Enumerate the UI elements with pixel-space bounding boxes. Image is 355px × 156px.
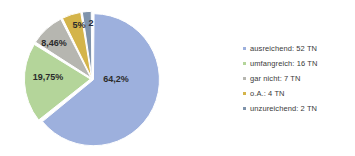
pie-slice-label-oa: 5% xyxy=(72,20,85,30)
pie-chart-svg: 64,2% 19,75% 8,46% 5% 2 xyxy=(0,0,200,156)
legend-color-swatch-icon xyxy=(243,107,246,110)
chart-legend: ausreichend: 52 TN umfangreich: 16 TN ga… xyxy=(243,41,355,116)
legend-item-label: umfangreich: 16 TN xyxy=(250,59,318,68)
pie-slice-label-umfangreich: 19,75% xyxy=(33,72,64,82)
legend-color-swatch-icon xyxy=(243,47,246,50)
pie-chart-figure: 64,2% 19,75% 8,46% 5% 2 ausreichend: 52 … xyxy=(0,0,355,156)
legend-item-oa[interactable]: o.A.: 4 TN xyxy=(243,86,355,100)
pie-chart-plot-area: 64,2% 19,75% 8,46% 5% 2 xyxy=(0,0,200,156)
legend-color-swatch-icon xyxy=(243,77,246,80)
legend-item-label: o.A.: 4 TN xyxy=(250,89,285,98)
pie-slice-label-gar-nicht: 8,46% xyxy=(41,38,67,48)
pie-slice-label-ausreichend: 64,2% xyxy=(103,74,129,84)
legend-item-gar-nicht[interactable]: gar nicht: 7 TN xyxy=(243,71,355,85)
legend-item-umfangreich[interactable]: umfangreich: 16 TN xyxy=(243,56,355,70)
legend-item-label: unzureichend: 2 TN xyxy=(250,104,317,113)
legend-item-ausreichend[interactable]: ausreichend: 52 TN xyxy=(243,41,355,55)
legend-color-swatch-icon xyxy=(243,62,246,65)
pie-slice-label-unzureichend: 2 xyxy=(88,18,93,28)
legend-item-unzureichend[interactable]: unzureichend: 2 TN xyxy=(243,101,355,115)
legend-color-swatch-icon xyxy=(243,92,246,95)
legend-item-label: ausreichend: 52 TN xyxy=(250,44,317,53)
legend-item-label: gar nicht: 7 TN xyxy=(250,74,301,83)
